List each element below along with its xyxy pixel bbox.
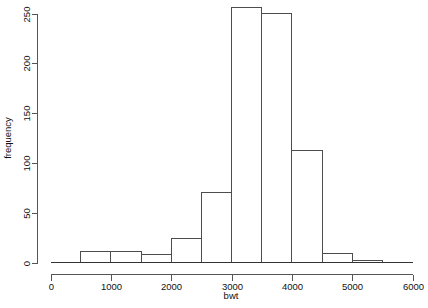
x-tick-label: 0 [49,281,54,292]
y-tick-label: 50 [21,208,32,219]
histogram-bar [111,252,141,263]
y-axis-title: frequency [2,117,13,159]
y-tick-label: 150 [21,106,32,122]
histogram-bar [141,255,171,263]
y-axis-ticks: 050100150200250 [21,7,37,267]
x-axis-title: bwt [224,290,239,301]
y-tick-label: 250 [21,7,32,23]
histogram-bar [232,8,262,263]
x-tick-label: 6000 [403,281,424,292]
histogram-bar [262,14,292,263]
x-tick-label: 4000 [282,281,303,292]
histogram-bar [322,254,352,263]
histogram-bar [81,252,111,263]
histogram-bar [201,193,231,263]
bars-group [51,8,413,263]
y-tick-label: 200 [21,56,32,72]
x-tick-label: 2000 [161,281,182,292]
x-tick-label: 1000 [101,281,122,292]
histogram-bar [292,151,322,263]
y-axis: 050100150200250 [21,7,37,267]
y-tick-label: 100 [21,156,32,172]
chart-canvas: 050100150200250 010002000300040005000600… [0,0,428,308]
histogram-bar [171,239,201,263]
y-tick-label: 0 [21,261,32,266]
histogram-plot: 050100150200250 010002000300040005000600… [0,0,428,308]
x-tick-label: 5000 [342,281,363,292]
